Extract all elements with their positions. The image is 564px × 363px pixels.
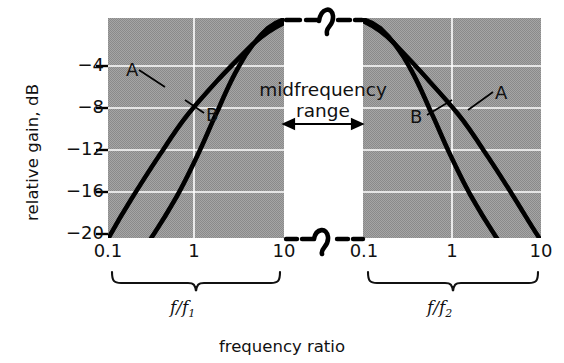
x-tick-label-right-1: 1 [430, 242, 474, 260]
y-tick-label-minus12: −12 [42, 140, 104, 158]
curve-label-A-left: A [126, 59, 138, 80]
curve-label-A-right: A [495, 82, 507, 103]
ratio-label-left: f/f1 [170, 297, 195, 320]
midfrequency-line2: range [296, 100, 350, 121]
midfrequency-line1: midfrequency [259, 79, 387, 100]
x-tick-label-left-10: 10 [261, 242, 307, 260]
x-tick-label-right-10: 10 [518, 242, 564, 260]
curve-label-B-right: B [410, 106, 422, 127]
midfrequency-range-label: midfrequency range [243, 80, 403, 121]
ratio-left-subscript: 1 [188, 307, 195, 320]
figure-canvas: relative gain, dB −4 −8 −12 −16 −20 0.1 … [0, 0, 564, 363]
left-panel-background [108, 18, 284, 238]
top-axis-break [286, 10, 362, 34]
x-axis-title: frequency ratio [0, 337, 564, 356]
ratio-label-right: f/f2 [427, 297, 452, 320]
curve-label-B-left: B [206, 104, 218, 125]
x-tick-label-right-0.1: 0.1 [340, 242, 388, 260]
x-tick-label-left-0.1: 0.1 [84, 242, 132, 260]
ratio-right-f1: f [427, 297, 433, 317]
x-tick-label-left-1: 1 [172, 242, 216, 260]
left-brace [112, 272, 280, 291]
y-axis-title: relative gain, dB [23, 43, 42, 263]
ratio-left-f1: f [170, 297, 176, 317]
right-brace [368, 272, 538, 291]
y-tick-label-minus4: −4 [42, 56, 104, 74]
y-tick-label-minus8: −8 [42, 98, 104, 116]
ratio-right-subscript: 2 [445, 307, 452, 320]
y-tick-label-minus16: −16 [42, 182, 104, 200]
